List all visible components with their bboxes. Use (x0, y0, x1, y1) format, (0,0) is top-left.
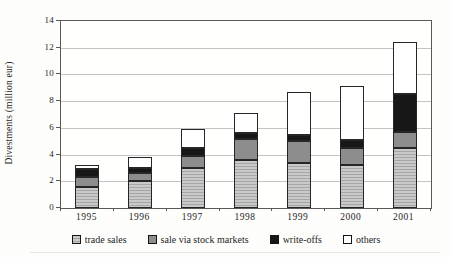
y-tick-label-0: 0 (49, 202, 54, 212)
bar-1999-write-offs (287, 135, 311, 142)
bar-1996-write-offs (128, 168, 152, 173)
y-tick-mark-10 (56, 73, 60, 74)
bar-1995-write-offs (75, 169, 99, 177)
bar-1995-sale-via-stock-markets (75, 177, 99, 186)
x-tick-mark-0 (60, 208, 61, 211)
y-tick-mark-2 (56, 180, 60, 181)
bar-2001-others (393, 42, 417, 94)
bar-1996-trade-sales (128, 181, 152, 208)
x-tick-label-2001: 2001 (393, 212, 414, 222)
plot-area (60, 20, 432, 209)
legend-item-trade-sales: trade sales (72, 234, 127, 245)
y-tick-label-12: 12 (44, 42, 54, 52)
gridline-y-12 (61, 48, 431, 49)
legend-item-sale-via-stock-markets: sale via stock markets (148, 234, 249, 245)
divestments-stacked-bar-chart: Divestments (million eur) 02468101214 19… (0, 0, 452, 257)
legend-swatch-trade-sales (72, 235, 81, 244)
x-tick-mark-6 (377, 208, 378, 211)
y-tick-mark-0 (56, 207, 60, 208)
x-tick-label-1999: 1999 (287, 212, 308, 222)
bar-2000-write-offs (340, 140, 364, 148)
legend-swatch-others (343, 235, 352, 244)
legend-label-write-offs: write-offs (283, 234, 322, 245)
x-tick-label-1998: 1998 (235, 212, 256, 222)
x-tick-label-1995: 1995 (76, 212, 97, 222)
gridline-y-8 (61, 101, 431, 102)
legend-label-trade-sales: trade sales (85, 234, 127, 245)
bar-1997-write-offs (181, 148, 205, 156)
legend-label-others: others (356, 234, 380, 245)
bar-1995-trade-sales (75, 187, 99, 208)
y-tick-mark-8 (56, 100, 60, 101)
bar-2000-others (340, 86, 364, 139)
bar-2000-trade-sales (340, 165, 364, 208)
y-tick-label-14: 14 (44, 15, 54, 25)
bar-1998-sale-via-stock-markets (234, 139, 258, 160)
legend-item-write-offs: write-offs (270, 234, 322, 245)
gridline-y-10 (61, 74, 431, 75)
x-tick-mark-5 (324, 208, 325, 211)
bar-2001-write-offs (393, 94, 417, 131)
legend-label-sale-via-stock-markets: sale via stock markets (161, 234, 249, 245)
bar-1996-sale-via-stock-markets (128, 173, 152, 181)
bar-1996-others (128, 157, 152, 168)
bar-1999-sale-via-stock-markets (287, 141, 311, 162)
y-tick-mark-4 (56, 154, 60, 155)
y-tick-mark-6 (56, 127, 60, 128)
y-tick-mark-14 (56, 20, 60, 21)
bar-2000-sale-via-stock-markets (340, 148, 364, 165)
x-tick-label-2000: 2000 (340, 212, 361, 222)
x-tick-mark-1 (113, 208, 114, 211)
bar-1995-others (75, 165, 99, 169)
legend-swatch-sale-via-stock-markets (148, 235, 157, 244)
bar-2001-sale-via-stock-markets (393, 132, 417, 148)
x-tick-mark-7 (430, 208, 431, 211)
scan-artifact-line (30, 252, 440, 253)
y-tick-mark-12 (56, 47, 60, 48)
x-tick-mark-4 (271, 208, 272, 211)
y-tick-label-10: 10 (44, 68, 54, 78)
bar-1998-trade-sales (234, 160, 258, 208)
bar-1999-others (287, 92, 311, 135)
y-tick-label-4: 4 (49, 149, 54, 159)
y-tick-label-2: 2 (49, 175, 54, 185)
legend: trade salessale via stock marketswrite-o… (0, 234, 452, 245)
x-tick-label-1996: 1996 (129, 212, 150, 222)
bar-1998-write-offs (234, 133, 258, 138)
bar-1999-trade-sales (287, 163, 311, 208)
bar-1997-sale-via-stock-markets (181, 156, 205, 168)
legend-item-others: others (343, 234, 380, 245)
bar-1997-trade-sales (181, 168, 205, 208)
x-tick-mark-3 (219, 208, 220, 211)
y-tick-label-8: 8 (49, 95, 54, 105)
bar-1998-others (234, 113, 258, 133)
bar-2001-trade-sales (393, 148, 417, 208)
x-tick-mark-2 (166, 208, 167, 211)
y-axis: 02468101214 (0, 20, 54, 207)
bar-1997-others (181, 129, 205, 148)
y-tick-label-6: 6 (49, 122, 54, 132)
legend-swatch-write-offs (270, 235, 279, 244)
x-tick-label-1997: 1997 (182, 212, 203, 222)
